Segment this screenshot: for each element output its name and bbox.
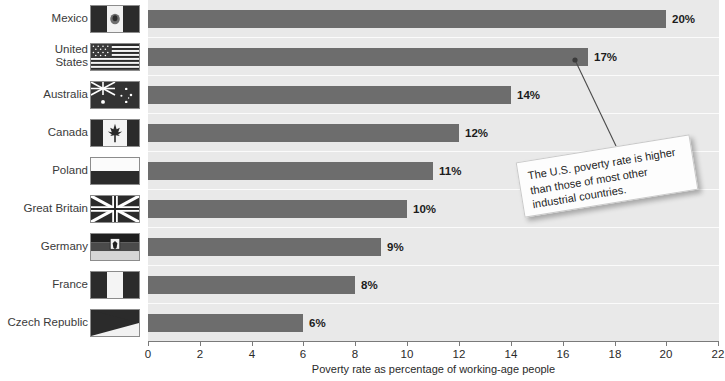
x-tick-label: 4 [232,348,272,360]
bar-canada [148,124,459,142]
x-tick-label: 10 [387,348,427,360]
bar-france [148,276,355,294]
x-tick-label: 6 [283,348,323,360]
x-tick-label: 20 [646,348,686,360]
flag-canada [90,119,140,147]
bar-germany [148,238,381,256]
x-tick [511,341,512,346]
bar-value-canada: 12% [465,124,488,142]
bar-poland [148,162,433,180]
x-axis-title: Poverty rate as percentage of working-ag… [148,363,719,375]
flag-czech-republic [90,309,140,337]
category-label-canada: Canada [0,126,88,139]
flag-united-states [90,43,140,71]
category-label-australia: Australia [0,88,88,101]
category-label-line: France [0,278,88,291]
bar-value-united-states: 17% [594,48,617,66]
bar-value-australia: 14% [517,86,540,104]
bar-value-mexico: 20% [672,10,695,28]
row-separator [148,227,719,228]
x-tick [200,341,201,346]
flag-poland [90,157,140,185]
flag-mexico [90,5,140,33]
x-tick-label: 14 [491,348,531,360]
category-label-france: France [0,278,88,291]
row-separator [148,37,719,38]
x-tick-label: 12 [439,348,479,360]
bar-value-poland: 11% [439,162,461,180]
x-tick [355,341,356,346]
category-label-line: Czech Republic [0,316,88,329]
category-label-great-britain: Great Britain [0,202,88,215]
category-label-united-states: United States [0,43,88,69]
category-label-line: Mexico [0,12,88,25]
category-label-line: United [0,43,88,56]
x-tick-label: 8 [335,348,375,360]
x-tick [718,341,719,346]
x-tick-label: 22 [698,348,725,360]
category-label-poland: Poland [0,164,88,177]
flag-germany [90,233,140,261]
category-label-czech-republic: Czech Republic [0,316,88,329]
x-tick-label: 16 [543,348,583,360]
row-separator [148,113,719,114]
row-separator [148,303,719,304]
row-separator [148,265,719,266]
flag-australia [90,81,140,109]
category-label-mexico: Mexico [0,12,88,25]
x-tick [615,341,616,346]
bar-mexico [148,10,666,28]
bar-australia [148,86,511,104]
x-tick-label: 2 [180,348,220,360]
x-tick [407,341,408,346]
category-label-line: Germany [0,240,88,253]
flag-france [90,271,140,299]
bar-united-states [148,48,588,66]
category-label-line: Australia [0,88,88,101]
bar-czech-republic [148,314,303,332]
x-tick [666,341,667,346]
category-label-line: Great Britain [0,202,88,215]
category-label-line: States [0,56,88,69]
bar-value-great-britain: 10% [413,200,436,218]
category-label-line: Canada [0,126,88,139]
x-tick-label: 18 [595,348,635,360]
bar-value-czech-republic: 6% [309,314,326,332]
x-tick [459,341,460,346]
bar-value-germany: 9% [387,238,404,256]
row-separator [148,75,719,76]
x-tick [148,341,149,346]
category-label-line: Poland [0,164,88,177]
x-tick [252,341,253,346]
x-tick [563,341,564,346]
x-tick-label: 0 [128,348,168,360]
bar-great-britain [148,200,407,218]
x-tick [303,341,304,346]
x-axis-line [148,341,719,342]
bar-value-france: 8% [361,276,378,294]
category-label-germany: Germany [0,240,88,253]
chart-figure: Mexico 20% United States [0,0,725,381]
flag-great-britain [90,195,140,223]
